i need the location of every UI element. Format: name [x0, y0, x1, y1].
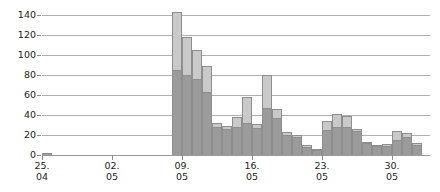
gridline	[42, 115, 430, 116]
bar-segment-lower	[402, 137, 412, 155]
bar-segment-upper	[282, 132, 292, 135]
x-axis-tick-label: 23.05	[314, 160, 329, 182]
bar-stack	[372, 145, 382, 155]
bar-stack	[232, 117, 242, 155]
x-axis-tick-label-day: 30.	[384, 160, 399, 171]
bar-segment-upper	[182, 37, 192, 75]
bar-segment-lower	[332, 127, 342, 155]
x-axis-tick-label-day: 25.	[34, 160, 49, 171]
bar-segment-lower	[392, 140, 402, 155]
bar-stack	[352, 129, 362, 155]
bar-stack	[322, 121, 332, 155]
bar-segment-upper	[362, 142, 372, 143]
bar-segment-lower	[362, 143, 372, 155]
bar-segment-upper	[332, 114, 342, 127]
gridline	[42, 95, 430, 96]
y-axis-tick	[37, 115, 41, 116]
y-axis-tick-label: 60	[24, 90, 36, 100]
bar-stack	[392, 131, 402, 155]
x-axis-tick-label-month: 05	[314, 171, 329, 182]
bar-segment-upper	[372, 145, 382, 146]
y-axis-labels: 020406080100120140	[0, 0, 36, 192]
bar-stack	[262, 75, 272, 155]
x-axis-tick-label-day: 16.	[244, 160, 259, 171]
x-axis-tick-label-month: 04	[34, 171, 49, 182]
bar-stack	[192, 50, 202, 155]
bar-segment-lower	[382, 146, 392, 155]
bar-stack	[362, 142, 372, 155]
bar-segment-upper	[382, 144, 392, 146]
bar-segment-lower	[242, 123, 252, 155]
gridline	[42, 15, 430, 16]
y-axis-tick-label: 20	[24, 130, 36, 140]
bar-segment-upper	[352, 129, 362, 131]
bar-segment-upper	[272, 109, 282, 118]
x-axis-tick-label: 16.05	[244, 160, 259, 182]
bar-segment-lower	[272, 118, 282, 155]
bar-stack	[182, 37, 192, 155]
bar-segment-lower	[322, 130, 332, 155]
y-axis-tick-label: 100	[18, 50, 36, 60]
bar-segment-lower	[302, 147, 312, 155]
bar-segment-upper	[322, 121, 332, 130]
bar-segment-lower	[222, 129, 232, 155]
y-axis-tick	[37, 95, 41, 96]
bar-stack	[302, 145, 312, 155]
bar-segment-lower	[192, 79, 202, 155]
bar-stack	[222, 126, 232, 155]
bar-segment-upper	[192, 50, 202, 79]
bar-stack	[172, 12, 182, 155]
x-axis-tick-label-month: 05	[174, 171, 189, 182]
bar-stack	[402, 133, 412, 155]
bar-stack	[202, 66, 212, 155]
bar-segment-upper	[392, 131, 402, 140]
bar-chart: 020406080100120140 25.0402.0509.0516.052…	[0, 0, 440, 192]
bar-segment-upper	[312, 149, 322, 150]
bar-segment-upper	[262, 75, 272, 108]
bar-segment-lower	[172, 70, 182, 155]
bar-segment-upper	[402, 133, 412, 137]
bar-segment-lower	[412, 145, 422, 155]
bar-segment-upper	[212, 123, 222, 127]
bar-segment-upper	[342, 116, 352, 127]
bar-segment-upper	[172, 12, 182, 70]
plot-area	[42, 14, 430, 155]
y-axis-tick-label: 0	[30, 150, 36, 160]
y-axis-tick	[37, 35, 41, 36]
bar-segment-upper	[222, 126, 232, 129]
bar-segment-lower	[202, 92, 212, 155]
bar-segment-upper	[412, 143, 422, 145]
gridline	[42, 35, 430, 36]
x-axis-tick-label-day: 09.	[174, 160, 189, 171]
bar-segment-lower	[182, 75, 192, 155]
bar-segment-lower	[262, 108, 272, 155]
x-axis-tick-label: 25.04	[34, 160, 49, 182]
x-axis-tick-label-day: 23.	[314, 160, 329, 171]
x-axis-tick-label-month: 05	[244, 171, 259, 182]
gridline	[42, 75, 430, 76]
bar-stack	[332, 114, 342, 155]
gridline	[42, 55, 430, 56]
bar-segment-lower	[372, 146, 382, 155]
x-axis-tick-label-day: 02.	[104, 160, 119, 171]
bar-stack	[382, 144, 392, 155]
bar-stack	[242, 97, 252, 155]
bar-segment-lower	[292, 137, 302, 155]
y-axis-tick-label: 80	[24, 70, 36, 80]
bar-segment-lower	[232, 127, 242, 155]
y-axis-tick	[37, 55, 41, 56]
y-axis-tick-label: 120	[18, 30, 36, 40]
x-axis-tick-label: 09.05	[174, 160, 189, 182]
x-axis-tick-label-month: 05	[384, 171, 399, 182]
bar-segment-lower	[252, 128, 262, 155]
y-axis-tick	[37, 135, 41, 136]
x-axis-tick-label: 30.05	[384, 160, 399, 182]
bar-stack	[292, 135, 302, 155]
y-axis-tick	[37, 15, 41, 16]
y-axis-tick	[37, 155, 41, 156]
y-axis-tick-label: 140	[18, 10, 36, 20]
x-axis-baseline	[42, 155, 430, 156]
bar-stack	[282, 132, 292, 155]
x-axis-tick-label-month: 05	[104, 171, 119, 182]
y-axis-tick-label: 40	[24, 110, 36, 120]
